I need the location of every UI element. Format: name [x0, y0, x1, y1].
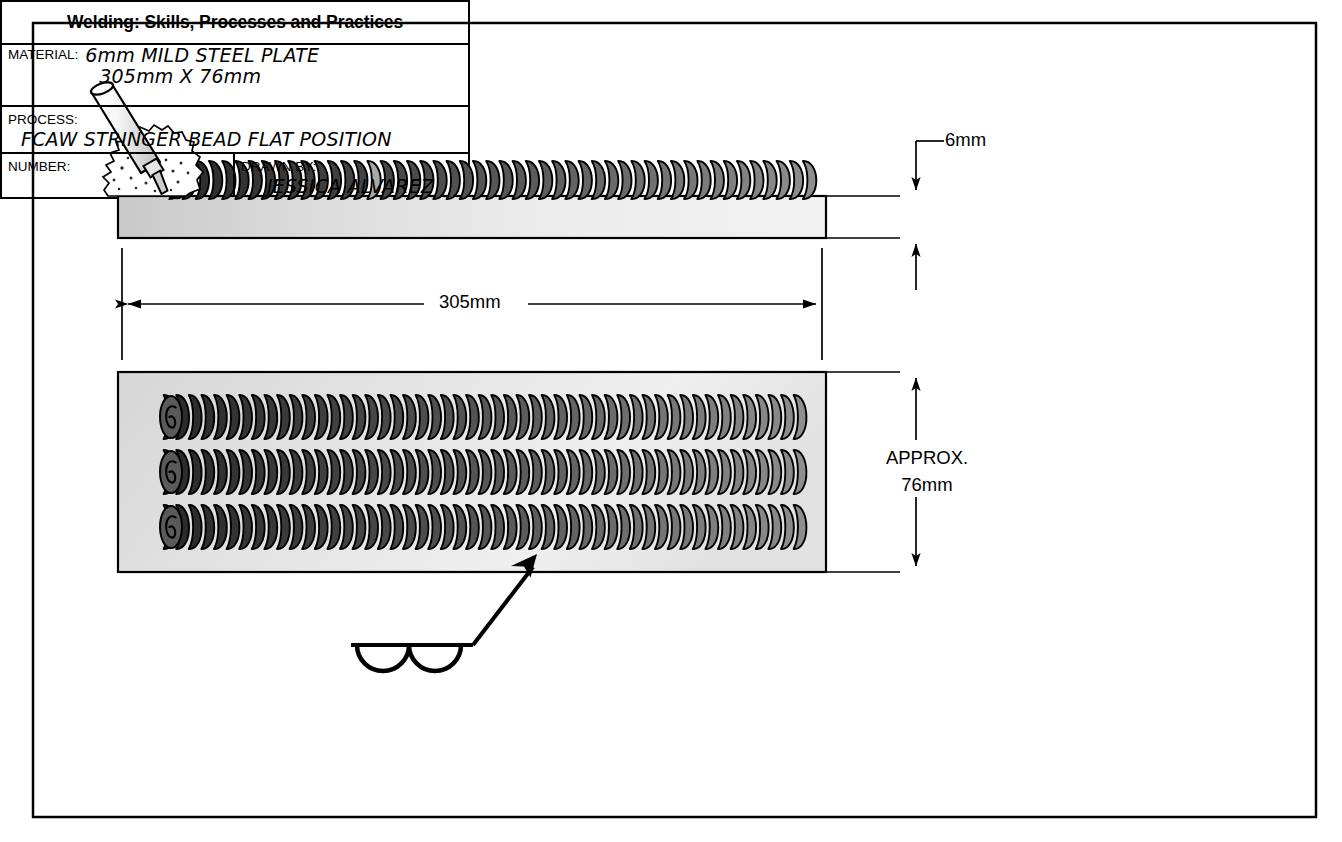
bead-start-crater	[160, 506, 182, 548]
plan-weld-bead	[160, 505, 806, 549]
bead-ripple	[605, 161, 618, 199]
bead-ripple	[552, 161, 565, 199]
title-block-number-row: NUMBER: DRAWN BY: JESSICA ALVAREZ	[2, 154, 468, 197]
side-plate	[118, 196, 826, 238]
bead-ripple	[592, 161, 605, 199]
title-block-title: Welding: Skills, Processes and Practices	[2, 2, 468, 45]
bead-ripple	[618, 161, 631, 199]
dimension-thickness-6mm	[826, 141, 944, 290]
bead-ripple	[539, 161, 552, 199]
drawn-by-value: JESSICA ALVAREZ	[267, 176, 468, 197]
bead-ripple	[750, 161, 763, 199]
bead-ripple	[777, 161, 790, 199]
drawn-by-label: DRAWN BY:	[241, 159, 316, 174]
weld-symbol-arc-left	[357, 645, 409, 671]
dimension-label-length: 305mm	[432, 291, 508, 313]
bead-ripple	[579, 161, 592, 199]
title-block-material-row: MATERIAL: 6mm MILD STEEL PLATE 305mm X 7…	[2, 45, 468, 107]
bead-ripple	[473, 161, 486, 199]
title-block-process-row: PROCESS: FCAW STRINGER BEAD FLAT POSITIO…	[2, 107, 468, 154]
plan-weld-bead	[160, 395, 806, 439]
bead-ripple	[631, 161, 644, 199]
dimension-label-width-line1: APPROX.	[886, 447, 968, 468]
material-value-line2: 305mm X 76mm	[99, 66, 261, 87]
process-label: PROCESS:	[8, 112, 78, 127]
bead-ripple	[526, 161, 539, 199]
bead-ripple	[803, 161, 816, 199]
drawn-by-cell: DRAWN BY: JESSICA ALVAREZ	[235, 154, 468, 197]
drawing-canvas: 6mm 305mm APPROX. 76mm Welding: Skills, …	[0, 0, 1342, 842]
bead-ripple	[697, 161, 710, 199]
dimension-label-thickness: 6mm	[945, 129, 986, 151]
bead-ripple	[724, 161, 737, 199]
bead-ripple	[499, 161, 512, 199]
bead-start-crater	[160, 396, 182, 438]
bead-ripple	[671, 161, 684, 199]
plan-weld-bead	[160, 450, 806, 494]
title-block: Welding: Skills, Processes and Practices…	[0, 0, 470, 199]
bead-ripple	[790, 161, 803, 199]
bead-start-crater	[160, 451, 182, 493]
dimension-label-width: APPROX. 76mm	[872, 445, 982, 499]
weld-symbol-arc-right	[409, 645, 461, 671]
bead-ripple	[486, 161, 499, 199]
plan-weld-beads	[160, 395, 806, 549]
bead-ripple	[684, 161, 697, 199]
bead-ripple	[658, 161, 671, 199]
bead-ripple	[711, 161, 724, 199]
dimension-label-width-line2: 76mm	[901, 474, 952, 495]
bead-ripple	[645, 161, 658, 199]
material-label: MATERIAL:	[8, 48, 78, 62]
bead-ripple	[565, 161, 578, 199]
number-label: NUMBER:	[8, 159, 70, 174]
process-value: FCAW STRINGER BEAD FLAT POSITION	[21, 129, 468, 150]
number-cell: NUMBER:	[2, 154, 235, 197]
plan-top-view	[118, 372, 826, 572]
weld-symbol-leader	[473, 567, 533, 645]
material-value-line1: 6mm MILD STEEL PLATE	[85, 44, 319, 66]
bead-ripple	[763, 161, 776, 199]
bead-ripple	[737, 161, 750, 199]
bead-ripple	[513, 161, 526, 199]
